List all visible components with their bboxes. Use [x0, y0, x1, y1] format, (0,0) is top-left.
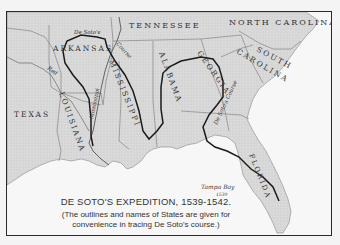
label-tampa-bay: Tampa Bay: [201, 183, 235, 191]
caption-note: (The outlines and names of States are gi…: [0, 210, 340, 230]
label-de-sotos: De Soto's: [73, 29, 101, 35]
label-north-carolina: NORTH CAROLINA: [229, 18, 332, 27]
caption-title: DE SOTO'S EXPEDITION, 1539-1542.: [0, 196, 340, 207]
map-caption: DE SOTO'S EXPEDITION, 1539-1542. (The ou…: [0, 196, 340, 230]
caption-note-line-2: convenience in tracing De Soto's course.…: [72, 220, 219, 229]
label-texas: TEXAS: [14, 110, 50, 119]
caption-note-line-1: (The outlines and names of States are gi…: [62, 210, 231, 219]
label-tennessee: TENNESSEE: [129, 21, 201, 30]
label-arkansas: ARKANSAS: [52, 44, 113, 53]
